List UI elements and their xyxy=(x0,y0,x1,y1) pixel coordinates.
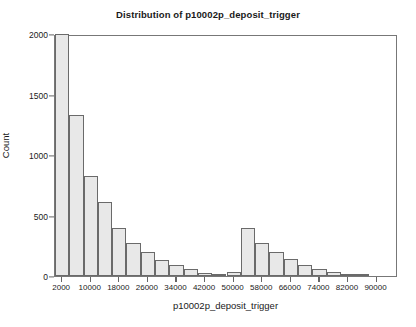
y-axis-tick-label: 1500 xyxy=(29,91,48,101)
histogram-bar xyxy=(327,272,341,276)
x-axis-tick-label: 42000 xyxy=(193,283,215,292)
x-axis-tick-mark xyxy=(233,277,234,282)
x-axis-tick-label: 50000 xyxy=(222,283,244,292)
x-axis-tick-label: 26000 xyxy=(136,283,158,292)
x-axis-tick-label: 74000 xyxy=(307,283,329,292)
histogram-bars xyxy=(55,36,396,276)
histogram-bar xyxy=(55,34,69,276)
histogram-bar xyxy=(126,243,140,276)
x-axis-tick-label: 90000 xyxy=(364,283,386,292)
x-axis-tick-mark xyxy=(175,277,176,282)
histogram-bar xyxy=(69,115,83,276)
histogram-bar xyxy=(255,243,269,276)
histogram-bar xyxy=(269,252,283,276)
y-axis-tick-label: 1000 xyxy=(29,151,48,161)
x-axis-tick-label: 66000 xyxy=(279,283,301,292)
x-axis-tick-label: 58000 xyxy=(250,283,272,292)
x-axis-tick-labels: 2000100001800026000340004200050000580006… xyxy=(54,283,397,297)
x-axis-tick-mark xyxy=(147,277,148,282)
histogram-bar xyxy=(284,259,298,276)
histogram-figure: Distribution of p10002p_deposit_trigger … xyxy=(0,0,416,327)
x-axis-tick-mark xyxy=(261,277,262,282)
x-axis-tick-label: 2000 xyxy=(52,283,70,292)
y-axis-title: Count xyxy=(0,133,11,158)
histogram-bar xyxy=(355,274,369,276)
histogram-bar xyxy=(198,273,212,276)
y-axis-tick-label: 2000 xyxy=(29,30,48,40)
x-axis-tick-mark xyxy=(90,277,91,282)
x-axis-tick-label: 10000 xyxy=(79,283,101,292)
histogram-bar xyxy=(312,269,326,277)
x-axis-tick-label: 18000 xyxy=(107,283,129,292)
x-axis-tick-label: 34000 xyxy=(164,283,186,292)
histogram-bar xyxy=(155,260,169,276)
histogram-bar xyxy=(98,202,112,276)
y-axis-tick-labels: 0500100015002000 xyxy=(14,35,48,277)
x-axis-title: p10002p_deposit_trigger xyxy=(54,300,397,311)
x-axis-tick-mark xyxy=(204,277,205,282)
histogram-bar xyxy=(298,265,312,276)
histogram-bar xyxy=(241,228,255,276)
histogram-bar xyxy=(227,272,241,276)
x-axis-tick-mark xyxy=(118,277,119,282)
histogram-bar xyxy=(84,176,98,276)
histogram-bar xyxy=(169,265,183,276)
y-axis-tick-label: 500 xyxy=(34,212,48,222)
histogram-bar xyxy=(341,274,355,276)
chart-title: Distribution of p10002p_deposit_trigger xyxy=(0,9,416,20)
histogram-bar xyxy=(141,252,155,276)
x-axis-tick-mark xyxy=(290,277,291,282)
x-axis-tick-mark xyxy=(318,277,319,282)
x-axis-tick-mark xyxy=(61,277,62,282)
plot-area xyxy=(54,35,397,277)
x-axis-tick-mark xyxy=(347,277,348,282)
histogram-bar xyxy=(112,228,126,276)
histogram-bar xyxy=(212,274,226,276)
x-axis-tick-mark xyxy=(376,277,377,282)
histogram-bar xyxy=(184,269,198,277)
x-axis-tick-label: 82000 xyxy=(336,283,358,292)
